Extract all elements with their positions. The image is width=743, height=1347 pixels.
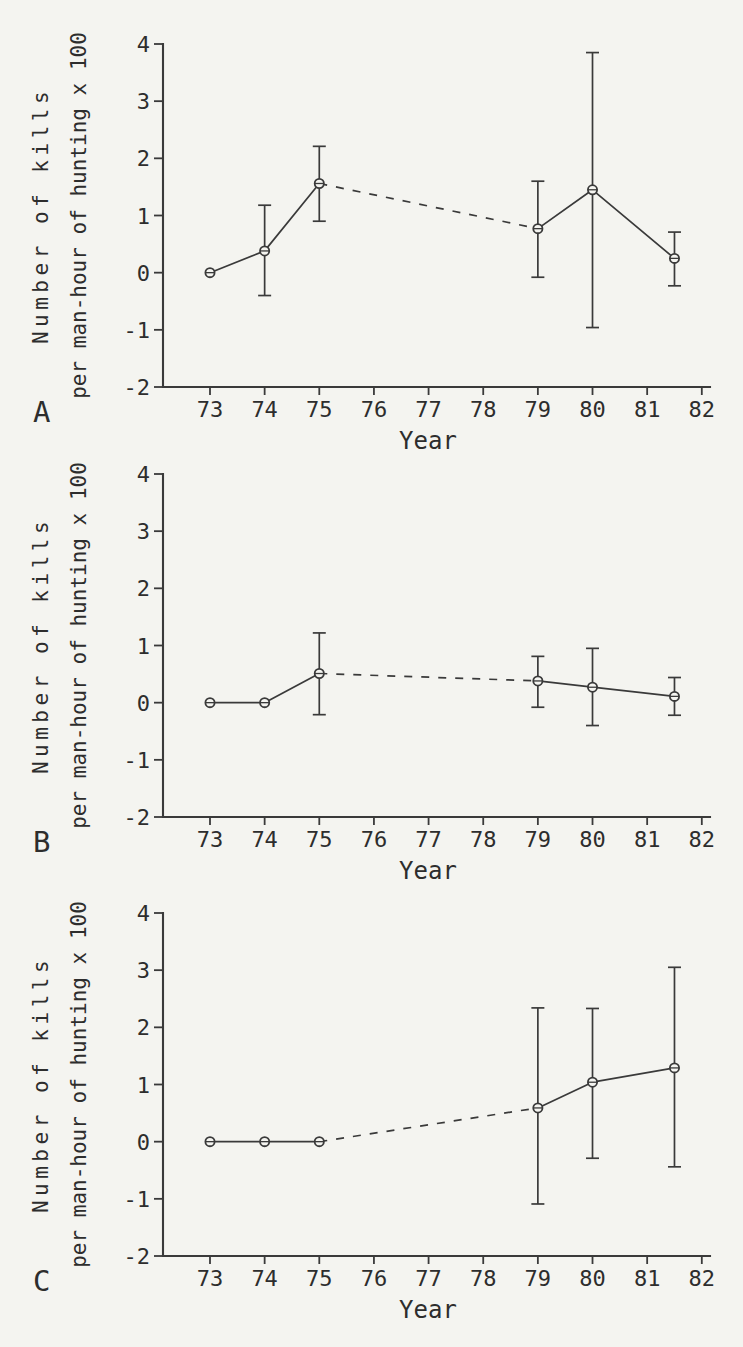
- y-tick-label: 1: [137, 1073, 150, 1098]
- x-tick-label: 77: [415, 1266, 442, 1291]
- y-tick-label: -1: [124, 1187, 151, 1212]
- x-tick-label: 81: [634, 397, 661, 422]
- x-tick-label: 81: [634, 1266, 661, 1291]
- x-tick-label: 82: [689, 1266, 716, 1291]
- scanned-figure: -2-10123473747576777879808182YearANumber…: [0, 0, 743, 1347]
- panel-letter: C: [33, 1264, 50, 1298]
- x-axis-title: Year: [399, 427, 457, 455]
- x-tick-label: 76: [361, 397, 388, 422]
- series-line-dashed: [319, 184, 538, 229]
- data-point-marker: [588, 185, 597, 194]
- x-tick-label: 76: [361, 1266, 388, 1291]
- data-point-marker: [315, 669, 324, 678]
- series-line-solid: [538, 681, 675, 697]
- x-tick-label: 74: [251, 397, 278, 422]
- x-tick-label: 80: [579, 1266, 606, 1291]
- x-tick-label: 75: [306, 397, 333, 422]
- y-tick-label: 2: [137, 1015, 150, 1040]
- series-line-dashed: [319, 1108, 538, 1142]
- x-tick-label: 75: [306, 1266, 333, 1291]
- x-tick-label: 77: [415, 827, 442, 852]
- y-tick-label: -2: [124, 1244, 151, 1269]
- y-axis-title-line2: per man-hour of hunting x 100: [67, 901, 91, 1268]
- y-tick-label: 4: [137, 32, 150, 57]
- y-tick-label: 1: [137, 204, 150, 229]
- y-tick-label: 4: [137, 462, 150, 487]
- x-tick-label: 80: [579, 827, 606, 852]
- x-tick-label: 73: [197, 397, 224, 422]
- y-tick-label: -2: [124, 805, 151, 830]
- y-tick-label: -1: [124, 748, 151, 773]
- y-axis-title-line2: per man-hour of hunting x 100: [67, 32, 91, 399]
- y-tick-label: 4: [137, 901, 150, 926]
- x-tick-label: 77: [415, 397, 442, 422]
- data-point-marker: [670, 254, 679, 263]
- data-point-marker: [260, 1137, 269, 1146]
- y-axis-title-line1: Number of kills: [29, 517, 53, 774]
- data-point-marker: [670, 1063, 679, 1072]
- x-axis-title: Year: [399, 1296, 457, 1324]
- x-tick-label: 78: [470, 827, 497, 852]
- x-tick-label: 73: [197, 1266, 224, 1291]
- data-point-marker: [533, 676, 542, 685]
- data-point-marker: [533, 224, 542, 233]
- x-tick-label: 82: [689, 397, 716, 422]
- chart-panel-c: -2-10123473747576777879808182YearCNumber…: [29, 901, 715, 1324]
- data-point-marker: [315, 179, 324, 188]
- data-point-marker: [260, 246, 269, 255]
- x-tick-label: 76: [361, 827, 388, 852]
- y-tick-label: 0: [137, 261, 150, 286]
- x-tick-label: 82: [689, 827, 716, 852]
- x-tick-label: 79: [525, 1266, 552, 1291]
- x-tick-label: 75: [306, 827, 333, 852]
- y-tick-label: 3: [137, 519, 150, 544]
- y-axis-title-line1: Number of kills: [29, 956, 53, 1213]
- y-axis-title-line2: per man-hour of hunting x 100: [67, 462, 91, 829]
- chart-panel-a: -2-10123473747576777879808182YearANumber…: [29, 32, 715, 455]
- y-tick-label: 2: [137, 576, 150, 601]
- x-tick-label: 74: [251, 827, 278, 852]
- data-point-marker: [670, 692, 679, 701]
- series-line-dashed: [319, 674, 538, 681]
- x-tick-label: 81: [634, 827, 661, 852]
- chart-panel-b: -2-10123473747576777879808182YearBNumber…: [29, 462, 715, 885]
- series-line-solid: [538, 190, 675, 259]
- data-point-marker: [315, 1137, 324, 1146]
- charts-svg: -2-10123473747576777879808182YearANumber…: [0, 0, 743, 1347]
- x-tick-label: 78: [470, 397, 497, 422]
- x-tick-label: 79: [525, 397, 552, 422]
- data-point-marker: [588, 683, 597, 692]
- x-tick-label: 79: [525, 827, 552, 852]
- y-tick-label: 0: [137, 1130, 150, 1155]
- data-point-marker: [260, 698, 269, 707]
- panel-letter: A: [33, 395, 50, 429]
- panel-letter: B: [33, 825, 50, 859]
- data-point-marker: [533, 1103, 542, 1112]
- y-tick-label: 1: [137, 634, 150, 659]
- x-axis-title: Year: [399, 857, 457, 885]
- data-point-marker: [205, 268, 214, 277]
- y-tick-label: 0: [137, 691, 150, 716]
- y-tick-label: -2: [124, 375, 151, 400]
- series-line-solid: [538, 1068, 675, 1108]
- y-axis-title-line1: Number of kills: [29, 87, 53, 344]
- y-tick-label: 2: [137, 146, 150, 171]
- x-tick-label: 73: [197, 827, 224, 852]
- x-tick-label: 80: [579, 397, 606, 422]
- data-point-marker: [205, 1137, 214, 1146]
- y-tick-label: -1: [124, 318, 151, 343]
- data-point-marker: [588, 1078, 597, 1087]
- y-tick-label: 3: [137, 958, 150, 983]
- y-tick-label: 3: [137, 89, 150, 114]
- x-tick-label: 78: [470, 1266, 497, 1291]
- x-tick-label: 74: [251, 1266, 278, 1291]
- data-point-marker: [205, 698, 214, 707]
